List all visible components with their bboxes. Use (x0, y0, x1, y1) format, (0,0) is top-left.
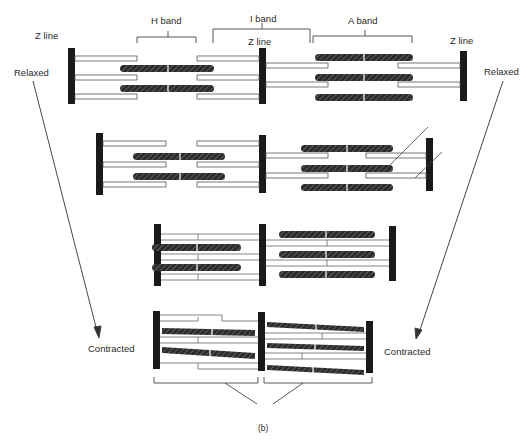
arrows (33, 81, 503, 339)
h-band-label: H band (151, 15, 182, 26)
z-line-label-mid: Z line (248, 36, 271, 47)
sarcomere-bracket-left (154, 377, 258, 383)
z-line (258, 312, 265, 371)
z-line (154, 224, 161, 286)
a-band-bracket (313, 30, 412, 43)
z-line-label-right: Z line (450, 35, 473, 46)
a-band-label: A band (348, 15, 378, 26)
contracted-label-left: Contracted (88, 343, 134, 354)
z-line (460, 51, 467, 101)
z-line (96, 133, 103, 195)
z-line (389, 226, 396, 281)
arrow-right (418, 81, 503, 336)
z-line (259, 224, 266, 286)
z-line (259, 135, 266, 193)
z-line (68, 48, 75, 104)
z-line-label-left: Z line (35, 30, 58, 41)
z-line (366, 321, 373, 373)
stage-partial (96, 127, 442, 195)
stage-contracted (153, 311, 373, 404)
sarcomere-diagram (0, 0, 531, 445)
arrowhead-left (94, 326, 101, 338)
relaxed-label-right: Relaxed (484, 66, 519, 77)
arrow-left (33, 81, 98, 335)
figure-caption: (b) (258, 423, 268, 433)
z-line (153, 311, 160, 369)
relaxed-label-left: Relaxed (14, 67, 49, 78)
arrowhead-right (415, 328, 422, 339)
h-band-bracket (137, 31, 196, 43)
stage-further (152, 224, 396, 286)
i-band-label: I band (250, 13, 276, 24)
sarcomere-bracket-right (264, 377, 372, 383)
contracted-label-right: Contracted (384, 346, 430, 357)
z-line (259, 48, 266, 104)
